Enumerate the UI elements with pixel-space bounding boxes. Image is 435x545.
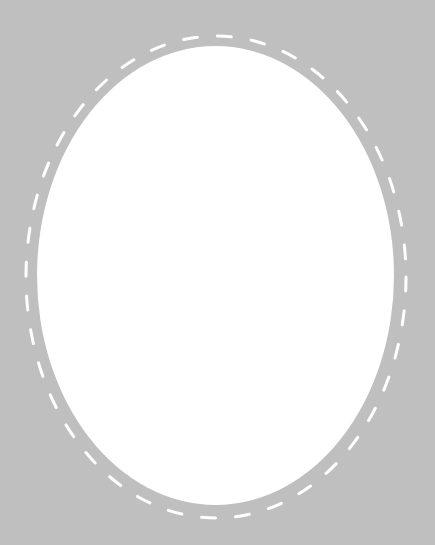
oval-frame-graphic bbox=[0, 0, 435, 545]
white-oval-frame bbox=[37, 46, 394, 505]
oval-frame-canvas bbox=[0, 0, 435, 545]
